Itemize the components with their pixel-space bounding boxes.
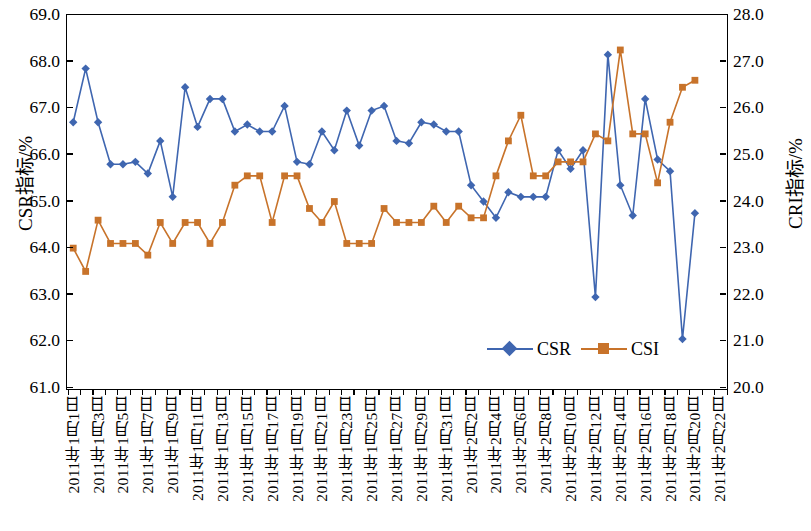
x-tick-mark [453,389,454,395]
x-tick-label: 2011年1月29日 [414,396,429,502]
data-point-csi [629,130,636,137]
data-point-csr [405,139,413,147]
data-point-csr [417,118,425,126]
data-point-csr [256,127,264,135]
x-tick-mark [689,389,690,395]
y-tick-label-left: 68.0 [2,51,60,71]
data-point-csi [517,112,524,119]
x-tick-mark [167,389,168,395]
data-point-csr [579,146,587,154]
x-tick-label: 2011年1月15日 [240,396,255,502]
data-point-csi [406,219,413,226]
data-point-csr [305,160,313,168]
y-tick-label-right: 24.0 [733,191,791,211]
x-tick-label: 2011年1月7日 [140,396,155,494]
y-tick-label-right: 27.0 [733,51,791,71]
y-tick-mark-left [67,60,73,62]
x-tick-mark [105,389,106,395]
data-point-csr [355,141,363,149]
data-point-csi [617,47,624,54]
data-point-csr [156,137,164,145]
data-point-csi [356,240,363,247]
data-point-csr [280,102,288,110]
data-point-csi [692,77,699,84]
x-tick-mark [540,389,541,395]
y-tick-mark-right [720,60,726,62]
data-point-csr [243,120,251,128]
data-point-csr [554,146,562,154]
x-tick-label: 2011年2月20日 [687,396,702,502]
y-tick-label-left: 63.0 [2,284,60,304]
chart-legend: CSR CSI [487,336,667,362]
y-tick-label-right: 22.0 [733,284,791,304]
data-point-csi [207,240,214,247]
data-point-csi [430,203,437,210]
data-point-csr [529,193,537,201]
x-tick-mark [428,389,429,395]
chart-container: CSR指标/% CRI指标/% CSR CSI 61.020.062.021.0… [0,0,811,531]
y-tick-mark-right [720,200,726,202]
data-point-csr [566,165,574,173]
data-point-csi [642,130,649,137]
x-tick-mark [155,389,156,395]
y-tick-mark-right [720,153,726,155]
y-tick-label-left: 69.0 [2,4,60,24]
data-point-csi [331,198,338,205]
data-point-csr [94,118,102,126]
data-point-csi [256,172,263,179]
legend-entry-csr: CSR [487,339,571,360]
x-tick-mark [664,389,665,395]
x-tick-mark [229,389,230,395]
x-tick-label: 2011年1月5日 [115,396,130,494]
data-point-csr [517,193,525,201]
x-tick-mark [80,389,81,395]
x-tick-label: 2011年2月2日 [464,396,479,494]
data-point-csr [691,209,699,217]
data-point-csr [542,193,550,201]
legend-marker-square [598,343,609,354]
data-point-csi [393,219,400,226]
y-tick-label-left: 64.0 [2,237,60,257]
data-point-csi [604,137,611,144]
y-tick-mark-right [720,247,726,249]
x-tick-label: 2011年1月31日 [439,396,454,502]
data-point-csr [392,137,400,145]
x-tick-label: 2011年1月23日 [339,396,354,502]
data-point-csi [592,130,599,137]
y-tick-mark-left [67,340,73,342]
data-point-csi [505,137,512,144]
series-layer [67,15,726,388]
x-tick-label: 2011年1月1日 [66,396,81,494]
data-point-csr [181,83,189,91]
x-tick-label: 2011年2月22日 [712,396,727,502]
y-tick-mark-right [720,14,726,16]
y-tick-label-right: 20.0 [733,377,791,397]
x-tick-mark [602,389,603,395]
x-tick-mark [465,389,466,395]
data-point-csr [454,127,462,135]
y-axis-left-title: CSR指标/% [10,114,37,254]
data-point-csi [144,252,151,259]
y-tick-label-right: 23.0 [733,237,791,257]
y-tick-label-right: 26.0 [733,97,791,117]
x-tick-mark [441,389,442,395]
x-tick-label: 2011年2月18日 [663,396,678,502]
data-point-csi [368,240,375,247]
data-point-csr [604,50,612,58]
data-point-csr [591,293,599,301]
data-point-csi [667,119,674,126]
x-tick-mark [117,389,118,395]
data-point-csr [119,160,127,168]
x-tick-mark [416,389,417,395]
x-tick-mark [316,389,317,395]
data-point-csr [616,181,624,189]
y-tick-mark-right [720,340,726,342]
x-tick-label: 2011年1月25日 [364,396,379,502]
data-point-csi [381,205,388,212]
data-point-csi [306,205,313,212]
x-tick-mark [515,389,516,395]
y-tick-label-left: 66.0 [2,144,60,164]
x-tick-mark [490,389,491,395]
x-tick-mark [204,389,205,395]
x-tick-mark [503,389,504,395]
